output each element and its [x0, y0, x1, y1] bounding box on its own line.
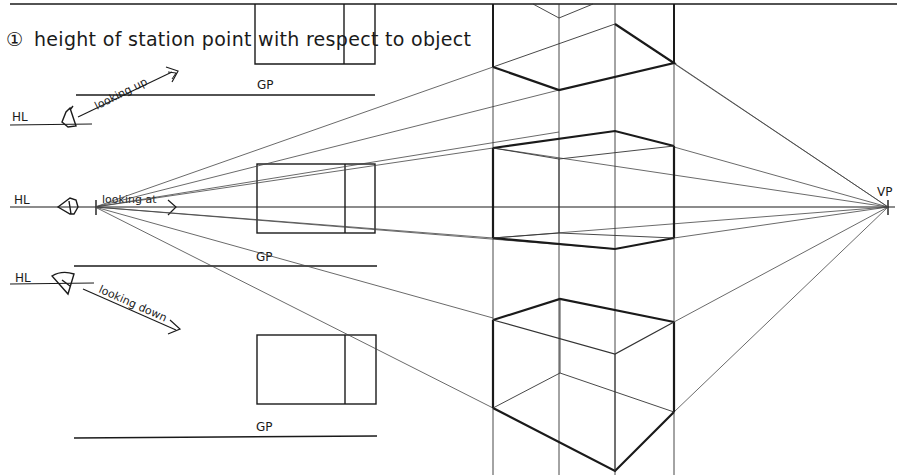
perspective-diagram: ① height of station point with respect t… [0, 0, 897, 475]
hl-label-top: HL [12, 110, 28, 124]
projection-lines-sp [95, 67, 615, 408]
hl-label-middle: HL [14, 193, 30, 207]
title-number: ① [6, 28, 23, 50]
ground-plane-bottom [74, 436, 377, 438]
looking-down-label: looking down [97, 283, 169, 325]
object-elevation-bottom [257, 335, 376, 404]
gp-label-middle: GP [256, 250, 273, 264]
vp-label: VP [877, 185, 892, 199]
cube-looking-down [493, 299, 674, 471]
cube-looking-up [493, 4, 674, 90]
hl-label-bottom: HL [15, 271, 31, 285]
horizon-line-top [10, 124, 92, 125]
eye-icon-at [58, 198, 78, 214]
gp-label-top: GP [257, 78, 274, 92]
viewer-looking-up: HL looking up [10, 67, 178, 127]
projection-lines-vp [493, 24, 888, 412]
looking-up-label: looking up [92, 75, 149, 113]
title-text: height of station point with respect to … [34, 28, 471, 50]
cube-looking-at [493, 131, 674, 249]
viewer-looking-down: HL looking down [10, 271, 180, 334]
gp-label-bottom: GP [256, 420, 273, 434]
